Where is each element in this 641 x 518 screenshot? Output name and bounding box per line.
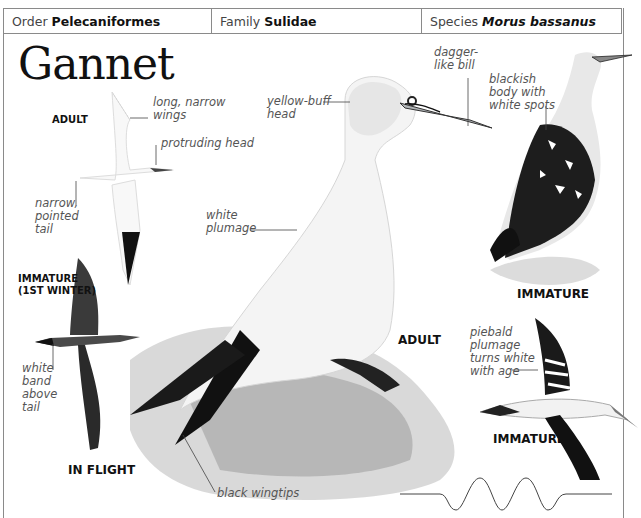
label-line: plumage [206, 222, 256, 235]
label-line: like bill [434, 59, 478, 72]
label-blackish-body: blackish body with white spots [489, 73, 555, 112]
label-dagger-bill: dagger- like bill [434, 46, 478, 72]
label-long-narrow-wings: long, narrow wings [153, 96, 225, 122]
caption-immature-line2: (1ST WINTER) [18, 285, 96, 297]
label-line: black wingtips [217, 487, 299, 500]
caption-immature-flying: IMMATURE [493, 433, 565, 445]
label-white-band: white band above tail [22, 362, 57, 414]
label-line: protruding head [161, 137, 254, 150]
caption-immature-line1: IMMATURE [18, 273, 96, 285]
label-line: white spots [489, 99, 555, 112]
caption-immature-standing: IMMATURE [517, 288, 589, 300]
label-line: tail [35, 223, 79, 236]
label-piebald: piebald plumage turns white with age [470, 326, 535, 378]
label-narrow-pointed-tail: narrow, pointed tail [35, 197, 79, 236]
caption-in-flight: IN FLIGHT [68, 464, 135, 476]
label-line: head [267, 108, 331, 121]
caption-immature-flight: IMMATURE (1ST WINTER) [18, 273, 96, 297]
label-line: wings [153, 109, 225, 122]
label-black-wingtips: black wingtips [217, 487, 299, 500]
caption-adult-main: ADULT [398, 334, 441, 346]
label-yellow-buff-head: yellow-buff head [267, 95, 331, 121]
label-white-plumage: white plumage [206, 209, 256, 235]
caption-adult-flight: ADULT [52, 114, 88, 126]
label-protruding-head: protruding head [161, 137, 254, 150]
label-line: tail [22, 401, 57, 414]
label-line: with age [470, 365, 535, 378]
